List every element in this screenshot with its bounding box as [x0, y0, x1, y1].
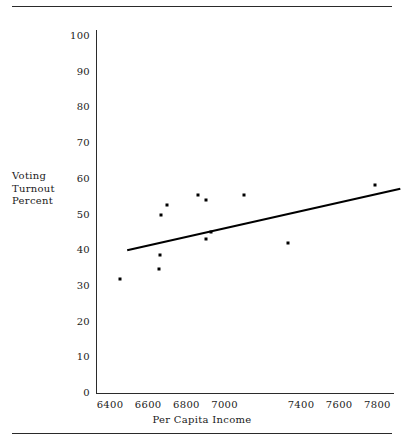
x-tick-label: 6800 — [173, 399, 200, 410]
x-tick-label: 7000 — [211, 399, 238, 410]
x-tick-label: 7400 — [288, 399, 315, 410]
x-tick-label: 6400 — [97, 399, 124, 410]
chart-figure: 0102030405060708090100 Voting Turnout Pe… — [0, 0, 404, 442]
regression-line — [127, 189, 400, 250]
x-tick-label: 6600 — [135, 399, 162, 410]
trendline-layer — [0, 0, 404, 442]
x-tick-label: 7600 — [326, 399, 353, 410]
x-tick-label: 7800 — [364, 399, 391, 410]
